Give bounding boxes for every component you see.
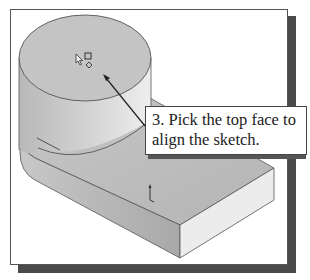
callout-box: 3. Pick the top face to align the sketch… [145, 106, 307, 155]
callout-line-1: 3. Pick the top face to [152, 110, 302, 130]
callout-line-2: align the sketch. [152, 130, 302, 150]
